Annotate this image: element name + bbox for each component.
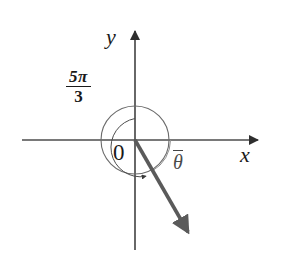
reference-angle-label: θ	[173, 150, 183, 172]
angle-measure-label: 5π 3	[66, 68, 91, 105]
reference-angle-arc	[153, 140, 171, 171]
reference-angle-symbol: θ	[173, 150, 183, 172]
x-axis-label: x	[240, 144, 250, 166]
angle-diagram: y x 0 θ 5π 3	[0, 0, 285, 263]
diagram-canvas	[0, 0, 285, 263]
angle-measure-numerator: 5π	[66, 68, 91, 87]
angle-measure-denominator: 3	[66, 87, 91, 105]
y-axis-label: y	[106, 26, 116, 48]
origin-label: 0	[113, 141, 125, 164]
